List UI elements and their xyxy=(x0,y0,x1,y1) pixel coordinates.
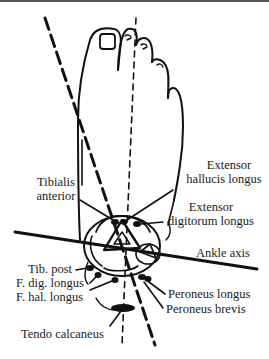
foot-outline xyxy=(78,28,121,240)
label-extensor-digitorum-longus: Extensor digitorum longus xyxy=(163,200,259,228)
anatomy-figure: Extensor hallucis longus Tibialis anteri… xyxy=(0,0,269,359)
label-tibialis-anterior: Tibialis anterior xyxy=(26,175,86,203)
label-ankle-axis: Ankle axis xyxy=(196,246,250,260)
label-tib-post: Tib. post xyxy=(28,262,72,276)
label-line: anterior xyxy=(26,189,86,203)
label-f-dig-longus: F. dig. longus xyxy=(16,276,84,290)
label-tendo-calcaneus: Tendo calcaneus xyxy=(21,327,104,341)
label-line: hallucis longus xyxy=(180,172,268,186)
tendon-calcaneus xyxy=(111,304,135,312)
tendon-f-hal-longus xyxy=(112,277,119,283)
label-line: Extensor xyxy=(190,158,268,172)
tendon-extensor-digitorum xyxy=(133,221,141,227)
label-peroneus-brevis: Peroneus brevis xyxy=(166,302,246,316)
label-extensor-hallucis-longus: Extensor hallucis longus xyxy=(190,158,268,186)
vertical-reference-line xyxy=(122,18,136,345)
label-f-hal-longus: F. hal. longus xyxy=(16,290,83,304)
label-line: digitorum longus xyxy=(163,214,259,228)
label-line: Tibialis xyxy=(26,175,86,189)
toenail xyxy=(100,34,115,49)
label-line: Extensor xyxy=(163,200,259,214)
label-peroneus-longus: Peroneus longus xyxy=(168,287,250,301)
